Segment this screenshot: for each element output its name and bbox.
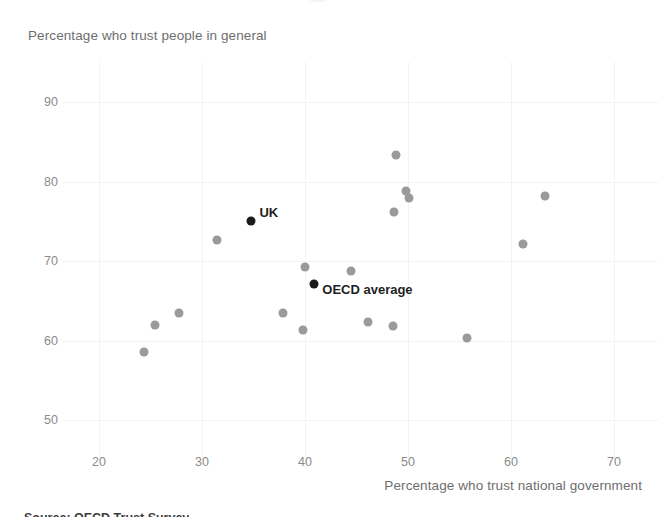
data-point [298,326,307,335]
gridline-horizontal [62,182,658,183]
gridline-horizontal [62,261,658,262]
x-axis-title: Percentage who trust national government [384,478,642,493]
x-tick-label: 70 [594,456,634,468]
data-point [363,318,372,327]
source-note-clipped: Source: OECD Trust Survey [24,511,189,517]
y-tick-label: 90 [18,96,58,108]
data-point [140,347,149,356]
y-tick-label: 70 [18,255,58,267]
data-point [213,235,222,244]
plot-area: 2030405060705060708090UKOECD average [0,0,664,517]
data-point [175,309,184,318]
gridline-horizontal [62,341,658,342]
x-tick-label: 60 [491,456,531,468]
gridline-horizontal [62,102,658,103]
data-point-uk [247,217,256,226]
data-point [540,191,549,200]
y-tick-label: 80 [18,176,58,188]
x-tick-label: 40 [285,456,325,468]
gridline-horizontal [62,420,658,421]
x-tick-label: 30 [182,456,222,468]
data-point [347,267,356,276]
data-point [150,321,159,330]
point-label-uk: UK [259,206,278,219]
point-label-oecd-average: OECD average [322,283,412,296]
data-point [462,334,471,343]
scatter-chart: Percentage who trust people in general 2… [0,0,664,517]
x-tick-label: 50 [388,456,428,468]
data-point [301,262,310,271]
data-point [391,151,400,160]
data-point [388,322,397,331]
data-point [389,207,398,216]
y-tick-label: 50 [18,414,58,426]
data-point [279,309,288,318]
data-point [405,194,414,203]
y-tick-label: 60 [18,335,58,347]
data-point [519,239,528,248]
data-point-oecd-average [310,280,319,289]
x-tick-label: 20 [79,456,119,468]
